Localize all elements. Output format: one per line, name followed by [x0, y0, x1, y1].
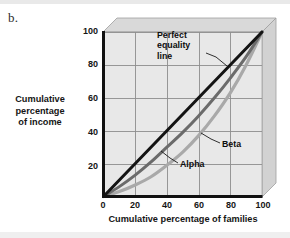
annotation-line-2: equality: [157, 40, 190, 50]
annotation-beta: Beta: [222, 139, 241, 149]
annotation-perfect-equality-line: Perfect equality line: [157, 30, 211, 61]
x-tick-100: 100: [251, 200, 275, 210]
x-tick-60: 60: [187, 200, 211, 210]
y-tick-100: 100: [74, 26, 98, 36]
y-axis-title: Cumulative percentage of income: [2, 94, 78, 129]
y-tick-80: 80: [74, 59, 98, 69]
x-axis-title: Cumulative percentage of families: [88, 214, 278, 224]
y-axis-title-line-3: of income: [18, 117, 61, 127]
plot-box-right-bevel: [262, 18, 276, 197]
x-tick-80: 80: [219, 200, 243, 210]
y-axis-title-line-2: percentage: [15, 106, 64, 116]
x-tick-0: 0: [91, 200, 115, 210]
x-tick-40: 40: [155, 200, 179, 210]
y-tick-20: 20: [74, 161, 98, 171]
x-tick-20: 20: [123, 200, 147, 210]
y-axis-title-line-1: Cumulative: [15, 94, 65, 104]
figure-panel: b. 100 80 60 40 20 0 20 40 60 80 100 Cum…: [0, 0, 290, 238]
annotation-line-1: Perfect: [157, 30, 187, 40]
annotation-line-3: line: [157, 51, 172, 61]
annotation-alpha: Alpha: [180, 159, 204, 169]
